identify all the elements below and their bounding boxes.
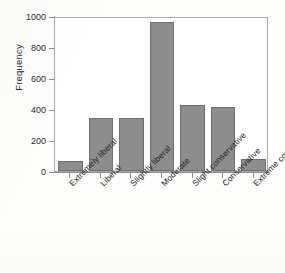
bar-chart-figure: Frequency 02004006008001000 Extremely li… xyxy=(0,0,285,273)
y-tick-label-600: 600 xyxy=(14,74,46,84)
y-tick-label-800: 800 xyxy=(14,43,46,53)
y-axis-title: Frequency xyxy=(13,28,24,108)
bar xyxy=(119,118,143,171)
y-tick-label-1000: 1000 xyxy=(14,12,46,22)
y-tick-label-0: 0 xyxy=(14,167,46,177)
y-tick-label-200: 200 xyxy=(14,136,46,146)
y-tick-label-400: 400 xyxy=(14,105,46,115)
